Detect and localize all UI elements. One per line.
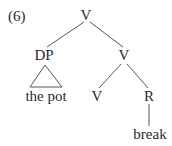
edge-root-vbar [90,22,123,47]
node-v-head: V [92,89,103,104]
terminal-the-pot: the pot [25,89,66,104]
dp-triangle [30,65,62,87]
edge-vbar-vhead [99,64,121,88]
node-r: R [144,89,154,104]
edge-vbar-r [127,64,148,88]
node-dp: DP [34,48,53,63]
node-root-v: V [81,8,92,23]
node-v-bar: V [119,48,130,63]
terminal-break: break [133,127,166,142]
edge-root-dp [47,22,84,47]
